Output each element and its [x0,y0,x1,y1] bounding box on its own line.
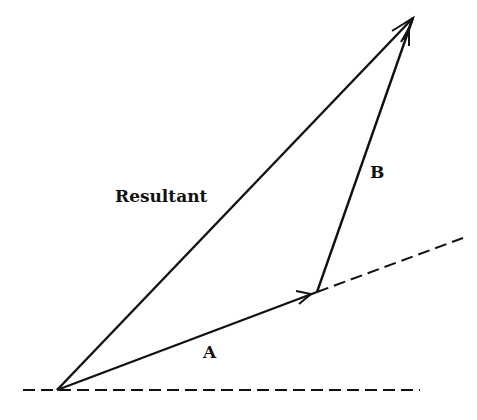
resultant-label: Resultant [115,188,207,205]
vector-a-extension [317,238,463,292]
resultant-line [57,18,413,390]
vector-diagram [0,0,477,420]
vector-a-line [57,292,317,390]
vector-a-label: A [203,344,216,361]
vector-b-line [317,18,413,292]
vector-b-label: B [370,164,384,181]
